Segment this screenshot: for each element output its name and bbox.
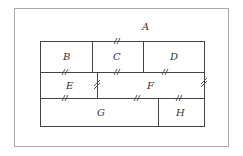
map-diagram: A B C D E F G H	[0, 0, 243, 156]
region-label-c: C	[113, 51, 121, 62]
region-label-e: E	[65, 80, 74, 91]
region-label-h: H	[175, 107, 185, 118]
region-label-b: B	[62, 51, 70, 62]
outer-frame	[15, 9, 229, 147]
region-label-a: A	[141, 21, 149, 32]
break-marks	[62, 38, 207, 101]
region-label-d: D	[169, 51, 178, 62]
region-label-f: F	[146, 80, 155, 91]
region-label-g: G	[97, 107, 105, 118]
